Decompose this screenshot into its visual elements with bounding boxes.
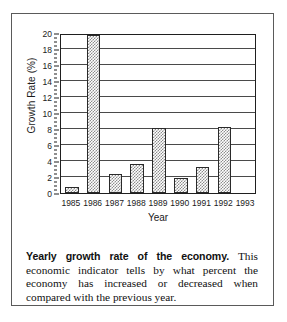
bar-1985	[65, 187, 79, 193]
y-tick-label: 20	[30, 29, 52, 39]
y-tick-minor	[54, 122, 57, 123]
bar-1990	[174, 178, 188, 193]
y-tick-major	[54, 130, 59, 131]
y-tick-minor	[54, 90, 57, 91]
y-tick-major	[54, 194, 59, 195]
y-tick-minor	[54, 106, 57, 107]
y-tick-label: 0	[30, 189, 52, 199]
y-tick-minor	[54, 166, 57, 167]
y-tick-major	[54, 82, 59, 83]
y-tick-label: 10	[30, 109, 52, 119]
bar-chart: Growth Rate (%) 02468101214161820 198519…	[12, 14, 273, 229]
y-tick-major	[54, 178, 59, 179]
y-tick-minor	[54, 70, 57, 71]
bar-1986	[87, 35, 101, 193]
y-axis-tick-labels: 02468101214161820	[26, 34, 52, 194]
y-tick-minor	[54, 126, 57, 127]
y-tick-major	[54, 50, 59, 51]
y-tick-minor	[54, 138, 57, 139]
y-tick-label: 18	[30, 45, 52, 55]
y-tick-label: 16	[30, 61, 52, 71]
y-tick-minor	[54, 46, 57, 47]
y-tick-minor	[54, 142, 57, 143]
bar-1988	[130, 164, 144, 193]
y-tick-minor	[54, 74, 57, 75]
bar-1987	[109, 174, 123, 193]
y-tick-label: 8	[30, 125, 52, 135]
y-tick-minor	[54, 186, 57, 187]
y-tick-major	[54, 114, 59, 115]
caption-lead-text: Yearly growth rate of the economy.	[26, 250, 229, 262]
y-tick-label: 6	[30, 141, 52, 151]
y-tick-minor	[54, 94, 57, 95]
y-tick-major	[54, 34, 59, 35]
x-tick-label-1993: 1993	[228, 198, 262, 208]
x-axis-title: Year	[60, 212, 256, 223]
y-tick-minor	[54, 54, 57, 55]
y-tick-minor	[54, 110, 57, 111]
y-tick-minor	[54, 62, 57, 63]
y-tick-minor	[54, 58, 57, 59]
bar-1989	[152, 128, 166, 193]
bar-1991	[196, 167, 210, 193]
y-tick-minor	[54, 170, 57, 171]
y-tick-minor	[54, 182, 57, 183]
y-tick-minor	[54, 190, 57, 191]
y-tick-major	[54, 162, 59, 163]
y-tick-label: 2	[30, 173, 52, 183]
y-tick-minor	[54, 174, 57, 175]
y-tick-label: 14	[30, 77, 52, 87]
y-tick-minor	[54, 118, 57, 119]
y-tick-major	[54, 66, 59, 67]
y-tick-minor	[54, 150, 57, 151]
y-tick-minor	[54, 158, 57, 159]
bar-1992	[218, 127, 232, 193]
y-tick-label: 4	[30, 157, 52, 167]
y-tick-major	[54, 98, 59, 99]
plot-area	[60, 34, 256, 194]
x-axis-tick-labels: 198519861987198819891990199119921993	[60, 198, 256, 212]
y-tick-label: 12	[30, 93, 52, 103]
y-tick-minor	[54, 102, 57, 103]
y-tick-minor	[54, 154, 57, 155]
y-tick-minor	[54, 134, 57, 135]
y-tick-minor	[54, 86, 57, 87]
y-tick-minor	[54, 78, 57, 79]
figure-caption: Yearly growth rate of the economy. This …	[26, 250, 258, 304]
figure-panel: Growth Rate (%) 02468101214161820 198519…	[11, 13, 274, 306]
y-tick-minor	[54, 38, 57, 39]
y-tick-major	[54, 146, 59, 147]
y-tick-minor	[54, 42, 57, 43]
